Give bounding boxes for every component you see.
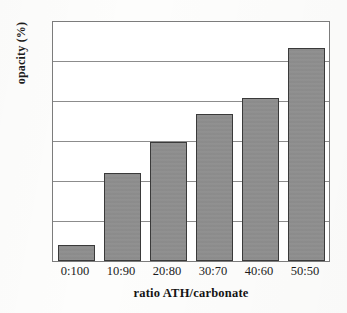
x-tick-label-10-90: 10:90 — [98, 264, 144, 279]
bar-chart-figure: opacity (%) 10152025303540 0:10010:9020:… — [0, 0, 347, 313]
x-axis-title: ratio ATH/carbonate — [52, 286, 330, 301]
bar — [196, 114, 233, 261]
y-axis-title: opacity (%) — [14, 0, 32, 113]
bar-texture — [197, 115, 232, 260]
bar — [242, 98, 279, 261]
x-tick-label-30-70: 30:70 — [190, 264, 236, 279]
y-tick-mark-15 — [52, 221, 53, 222]
y-tick-mark-25 — [52, 141, 53, 142]
plot-area: 10152025303540 — [52, 21, 330, 262]
y-tick-mark-35 — [52, 61, 53, 62]
bar-texture — [151, 143, 186, 260]
bar-texture — [105, 174, 140, 260]
y-tick-mark-20 — [52, 181, 53, 182]
y-tick-mark-10 — [52, 261, 53, 262]
x-tick-label-0-100: 0:100 — [52, 264, 98, 279]
bar — [58, 245, 95, 261]
bar-texture — [243, 99, 278, 260]
x-tick-label-20-80: 20:80 — [144, 264, 190, 279]
y-tick-mark-30 — [52, 101, 53, 102]
x-tick-label-50-50: 50:50 — [282, 264, 328, 279]
y-tick-mark-40 — [52, 22, 53, 23]
bar-texture — [289, 49, 324, 261]
bar — [288, 48, 325, 262]
bar — [150, 142, 187, 261]
x-axis-category-labels: 0:10010:9020:8030:7040:6050:50 — [52, 264, 330, 284]
x-tick-label-40-60: 40:60 — [236, 264, 282, 279]
bar-texture — [59, 246, 94, 260]
bar — [104, 173, 141, 261]
